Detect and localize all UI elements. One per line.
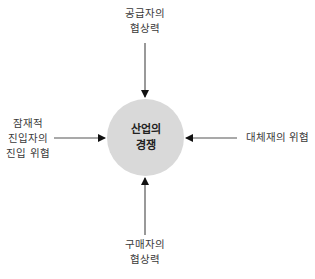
- center-label-line2: 경쟁: [136, 138, 156, 154]
- supplier-power-label: 공급자의 협상력: [115, 6, 175, 36]
- industry-competition-node: 산업의 경쟁: [107, 99, 184, 176]
- buyer-line2: 협상력: [115, 252, 175, 267]
- substitutes-line1: 대체재의 위협: [240, 130, 315, 145]
- entrants-line1: 잠재적: [0, 116, 56, 131]
- supplier-line2: 협상력: [115, 21, 175, 36]
- new-entrants-label: 잠재적 진입자의 진입 위협: [0, 116, 56, 161]
- entrants-line3: 진입 위협: [0, 146, 56, 161]
- buyer-power-label: 구매자의 협상력: [115, 237, 175, 267]
- buyer-line1: 구매자의: [115, 237, 175, 252]
- entrants-line2: 진입자의: [0, 131, 56, 146]
- supplier-line1: 공급자의: [115, 6, 175, 21]
- center-label-line1: 산업의: [131, 122, 161, 138]
- substitutes-label: 대체재의 위협: [240, 130, 315, 145]
